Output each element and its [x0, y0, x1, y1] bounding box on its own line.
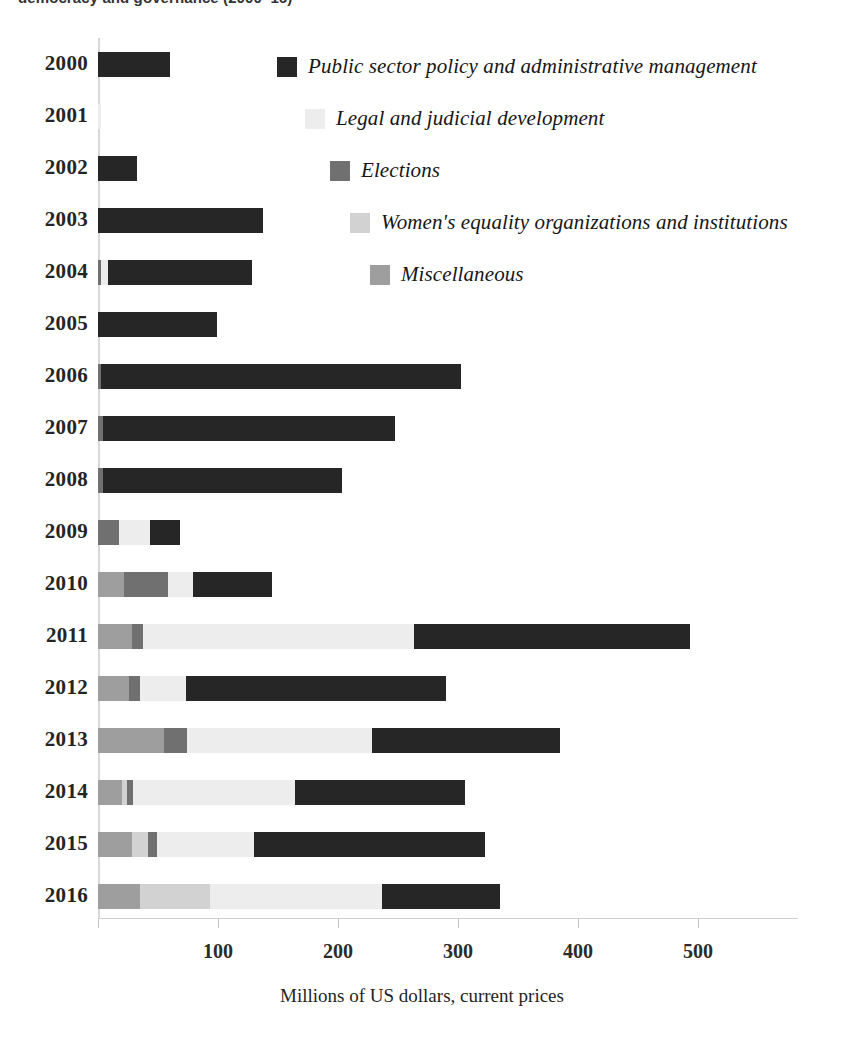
bar-segment	[124, 572, 168, 597]
bar-segment	[140, 676, 186, 701]
legend-swatch-icon	[350, 213, 370, 233]
year-label-2008: 2008	[0, 467, 88, 492]
bar-segment	[187, 728, 372, 753]
x-tick-label: 400	[563, 940, 593, 963]
stacked-bar	[98, 312, 217, 337]
year-label-2006: 2006	[0, 363, 88, 388]
bar-row: 2009	[0, 511, 844, 563]
legend-label: Miscellaneous	[401, 262, 524, 287]
legend-item[interactable]: Legal and judicial development	[305, 106, 604, 136]
bar-segment	[98, 572, 124, 597]
x-tick-mark-zero	[98, 919, 99, 928]
chart-plot-area: 2000200120022003200420052006200720082009…	[0, 0, 844, 1038]
bar-row: 2005	[0, 303, 844, 355]
x-tick-mark	[338, 919, 339, 928]
x-tick-label: 200	[323, 940, 353, 963]
stacked-bar	[98, 780, 465, 805]
bar-segment	[210, 884, 382, 909]
bar-segment	[372, 728, 560, 753]
legend-item[interactable]: Elections	[330, 158, 440, 188]
year-label-2016: 2016	[0, 883, 88, 908]
x-tick-mark	[218, 919, 219, 928]
bar-row: 2014	[0, 771, 844, 823]
year-label-2010: 2010	[0, 571, 88, 596]
year-label-2015: 2015	[0, 831, 88, 856]
bar-segment	[98, 780, 122, 805]
legend-item[interactable]: Women's equality organizations and insti…	[350, 210, 788, 240]
bar-row: 2015	[0, 823, 844, 875]
legend-label: Women's equality organizations and insti…	[381, 210, 788, 235]
x-axis-title: Millions of US dollars, current prices	[0, 985, 844, 1007]
bar-segment	[129, 676, 140, 701]
stacked-bar	[98, 572, 272, 597]
legend-label: Legal and judicial development	[336, 106, 604, 131]
bar-row: 2016	[0, 875, 844, 927]
stacked-bar	[98, 416, 395, 441]
year-label-2009: 2009	[0, 519, 88, 544]
stacked-bar	[98, 468, 342, 493]
legend-label: Elections	[361, 158, 440, 183]
x-tick-mark	[458, 919, 459, 928]
legend-label: Public sector policy and administrative …	[308, 54, 757, 79]
bar-segment	[140, 884, 210, 909]
bar-segment	[186, 676, 446, 701]
bar-row: 2010	[0, 563, 844, 615]
year-label-2013: 2013	[0, 727, 88, 752]
year-label-2005: 2005	[0, 311, 88, 336]
bar-segment	[132, 624, 143, 649]
bar-row: 2008	[0, 459, 844, 511]
chart-legend: Public sector policy and administrative …	[0, 0, 844, 300]
bar-segment	[98, 520, 119, 545]
legend-swatch-icon	[305, 109, 325, 129]
bar-segment	[414, 624, 690, 649]
bar-segment	[295, 780, 465, 805]
stacked-bar	[98, 364, 461, 389]
stacked-bar	[98, 884, 500, 909]
bar-segment	[98, 312, 217, 337]
bar-segment	[119, 520, 150, 545]
x-tick-mark	[578, 919, 579, 928]
bar-segment	[148, 832, 157, 857]
bar-row: 2012	[0, 667, 844, 719]
bar-segment	[98, 728, 164, 753]
bar-segment	[103, 468, 342, 493]
x-tick-label: 100	[203, 940, 233, 963]
x-tick-label: 500	[683, 940, 713, 963]
stacked-bar	[98, 728, 560, 753]
bar-segment	[164, 728, 187, 753]
bar-segment	[103, 416, 395, 441]
x-tick-mark	[698, 919, 699, 928]
bar-segment	[150, 520, 180, 545]
bar-segment	[382, 884, 500, 909]
x-tick-label: 300	[443, 940, 473, 963]
year-label-2012: 2012	[0, 675, 88, 700]
bar-segment	[254, 832, 485, 857]
bar-segment	[132, 832, 148, 857]
bar-segment	[168, 572, 193, 597]
stacked-bar	[98, 624, 690, 649]
bar-segment	[133, 780, 295, 805]
stacked-bar	[98, 676, 446, 701]
bar-segment	[101, 364, 461, 389]
bar-segment	[157, 832, 254, 857]
legend-swatch-icon	[370, 265, 390, 285]
bar-row: 2011	[0, 615, 844, 667]
bar-segment	[98, 624, 132, 649]
bar-segment	[98, 676, 129, 701]
legend-item[interactable]: Miscellaneous	[370, 262, 524, 292]
year-label-2007: 2007	[0, 415, 88, 440]
bar-row: 2006	[0, 355, 844, 407]
legend-item[interactable]: Public sector policy and administrative …	[277, 54, 757, 84]
year-label-2014: 2014	[0, 779, 88, 804]
legend-swatch-icon	[277, 57, 297, 77]
bar-segment	[98, 884, 140, 909]
bar-row: 2007	[0, 407, 844, 459]
legend-swatch-icon	[330, 161, 350, 181]
bar-segment	[193, 572, 272, 597]
stacked-bar	[98, 832, 485, 857]
year-label-2011: 2011	[0, 623, 88, 648]
bar-segment	[143, 624, 414, 649]
bar-segment	[98, 832, 132, 857]
bar-row: 2013	[0, 719, 844, 771]
stacked-bar	[98, 520, 180, 545]
